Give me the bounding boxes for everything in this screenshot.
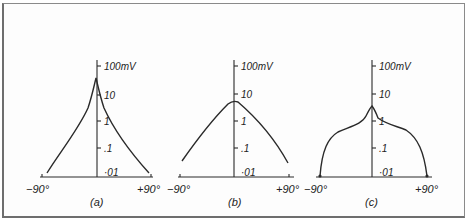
- panel-b-xmin-label: −90°: [167, 183, 191, 195]
- panel-a-xmax-label: +90°: [137, 183, 161, 195]
- panel-b: [178, 60, 294, 177]
- panel-b-caption: (b): [228, 196, 242, 208]
- panel-c-xmax-label: +90°: [415, 183, 439, 195]
- panel-c-tick-10: 10: [379, 89, 391, 100]
- panel-a-xmin-label: −90°: [26, 183, 50, 195]
- panel-a-tick-0-1: .1: [104, 143, 112, 154]
- panel-a-caption: (a): [90, 196, 104, 208]
- polar-response-diagram: 100mV 10 1 .1 ·01 −90° +90° (a) 100mV 10…: [0, 0, 468, 222]
- panel-c-curve: [320, 106, 427, 176]
- panel-b-tick-1: 1: [241, 116, 247, 127]
- panel-a-tick-1: 1: [104, 116, 110, 127]
- panel-a-tick-10: 10: [104, 90, 116, 101]
- panel-b-xmax-label: +90°: [276, 183, 300, 195]
- panel-c-tick-100mv: 100mV: [379, 61, 412, 72]
- panel-b-tick-10: 10: [241, 89, 253, 100]
- panel-b-tick-100mv: 100mV: [241, 61, 274, 72]
- panel-c-xmin-label: −90°: [304, 183, 328, 195]
- panel-c-tick-0-01: ·01: [379, 167, 393, 178]
- panel-b-tick-0-01: ·01: [241, 167, 255, 178]
- panel-c-tick-1: 1: [379, 116, 385, 127]
- panel-c-caption: (c): [365, 196, 378, 208]
- panel-c: [316, 60, 432, 178]
- panel-a-curve: [47, 78, 149, 173]
- panel-b-curve: [182, 101, 288, 163]
- panel-b-tick-0-1: .1: [241, 143, 249, 154]
- panel-a-tick-100mv: 100mV: [104, 61, 137, 72]
- panel-c-tick-0-1: .1: [379, 143, 387, 154]
- panel-a: [40, 60, 153, 177]
- panel-a-tick-0-01: ·01: [104, 167, 118, 178]
